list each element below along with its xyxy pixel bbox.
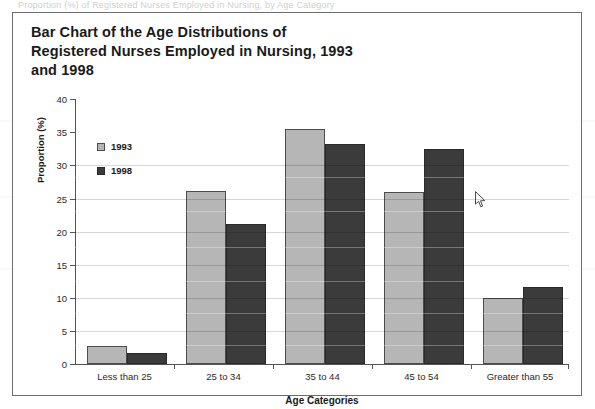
bar-1998-25-to-34[interactable] <box>226 224 266 364</box>
y-tick-label-10: 10 <box>56 293 67 304</box>
y-tick-label-40: 40 <box>56 94 67 105</box>
bar-group-less-than-25 <box>75 99 174 364</box>
x-category-label-greater-than-55: Greater than 55 <box>471 371 569 382</box>
y-axis-title: Proportion (%) <box>35 117 46 183</box>
bar-1993-greater-than-55[interactable] <box>483 298 523 364</box>
y-tick-0 <box>70 364 75 365</box>
chart-legend: 1993 1998 <box>97 141 132 189</box>
x-axis-title: Age Categories <box>75 395 569 406</box>
x-tick-1 <box>174 364 175 369</box>
chart-title-line-1: Bar Chart of the Age Distributions of <box>31 23 451 42</box>
y-tick-label-15: 15 <box>56 260 67 271</box>
x-category-label-35-to-44: 35 to 44 <box>273 371 372 382</box>
bar-1993-45-to-54[interactable] <box>384 192 424 364</box>
y-tick-label-0: 0 <box>62 359 67 370</box>
bar-group-45-to-54 <box>372 99 471 364</box>
chart-title-line-2: Registered Nurses Employed in Nursing, 1… <box>31 42 451 61</box>
bar-group-35-to-44 <box>273 99 372 364</box>
x-tick-2 <box>273 364 274 369</box>
legend-item-1998[interactable]: 1998 <box>97 165 132 176</box>
x-tick-4 <box>471 364 472 369</box>
legend-swatch-icon-1993 <box>97 143 105 151</box>
bar-1993-35-to-44[interactable] <box>285 129 325 364</box>
x-category-label-less-than-25: Less than 25 <box>75 371 174 382</box>
legend-label-1998: 1998 <box>111 165 132 176</box>
bar-1993-less-than-25[interactable] <box>87 346 127 364</box>
y-tick-label-20: 20 <box>56 227 67 238</box>
scan-cutoff-text: Proportion (%) of Registered Nurses Empl… <box>18 0 558 11</box>
y-tick-label-5: 5 <box>62 326 67 337</box>
y-tick-label-35: 35 <box>56 127 67 138</box>
legend-label-1993: 1993 <box>111 141 132 152</box>
x-tick-3 <box>372 364 373 369</box>
y-tick-label-30: 30 <box>56 160 67 171</box>
legend-item-1993[interactable]: 1993 <box>97 141 132 152</box>
bar-1998-less-than-25[interactable] <box>127 353 167 364</box>
chart-title-line-3: and 1998 <box>31 61 451 80</box>
x-category-label-45-to-54: 45 to 54 <box>372 371 471 382</box>
figure-container: Bar Chart of the Age Distributions of Re… <box>12 12 582 396</box>
plot-area: 40 35 30 25 20 15 10 5 0 <box>75 99 569 365</box>
bar-1998-35-to-44[interactable] <box>325 144 365 364</box>
bar-group-greater-than-55 <box>471 99 569 364</box>
bar-1998-45-to-54[interactable] <box>424 149 464 364</box>
x-axis-line <box>75 364 569 365</box>
y-tick-label-25: 25 <box>56 194 67 205</box>
legend-swatch-icon-1998 <box>97 167 105 175</box>
x-tick-5 <box>568 364 569 369</box>
bar-1993-25-to-34[interactable] <box>186 191 226 364</box>
x-category-label-25-to-34: 25 to 34 <box>174 371 273 382</box>
bar-group-25-to-34 <box>174 99 273 364</box>
bar-1998-greater-than-55[interactable] <box>523 287 563 364</box>
chart-title: Bar Chart of the Age Distributions of Re… <box>31 23 451 80</box>
mouse-pointer-icon <box>475 191 487 208</box>
